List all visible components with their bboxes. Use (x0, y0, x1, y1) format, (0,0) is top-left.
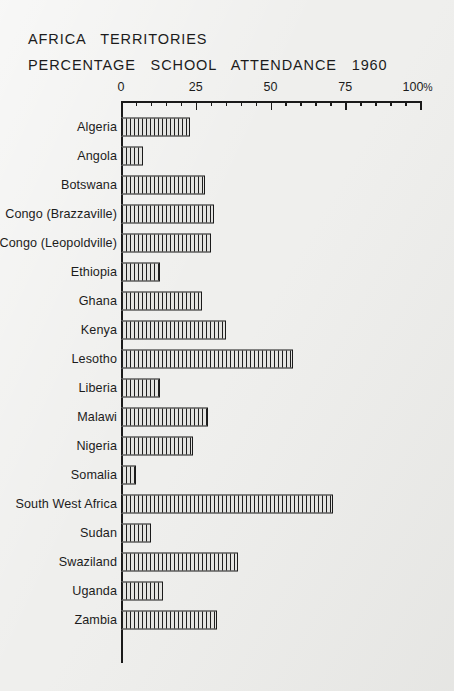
bar-row: Uganda (0, 576, 454, 605)
bar-track (121, 233, 211, 252)
bar-row: Nigeria (0, 431, 454, 460)
bar (121, 320, 226, 339)
bar-track (121, 320, 226, 339)
bar-rows: AlgeriaAngolaBotswanaCongo (Brazzaville)… (0, 112, 454, 634)
x-axis-minor-tick (315, 101, 317, 106)
x-axis-minor-tick (390, 101, 392, 106)
bar-track (121, 204, 214, 223)
x-axis-minor-tick (360, 101, 362, 106)
bar (121, 465, 136, 484)
bar-track (121, 610, 217, 629)
bar-category-label: Liberia (78, 381, 117, 395)
bar (121, 610, 217, 629)
x-axis-major-tick (420, 101, 422, 110)
bar-track (121, 291, 202, 310)
bar-track (121, 523, 151, 542)
x-axis-minor-tick (300, 101, 302, 106)
bar (121, 552, 238, 571)
bar (121, 349, 293, 368)
x-axis-minor-tick (181, 101, 183, 106)
bar-category-label: Ghana (79, 294, 117, 308)
bar (121, 378, 160, 397)
x-axis-major-tick (271, 101, 273, 110)
bar-track (121, 581, 163, 600)
bar (121, 291, 202, 310)
bar-row: Swaziland (0, 547, 454, 576)
bar (121, 581, 163, 600)
bar-category-label: Lesotho (71, 352, 117, 366)
bar (121, 262, 160, 281)
bar-track (121, 407, 208, 426)
bar-row: Somalia (0, 460, 454, 489)
bar (121, 233, 211, 252)
bar (121, 407, 208, 426)
x-axis-minor-tick (375, 101, 377, 106)
x-axis-tick-label: 25 (189, 80, 203, 94)
x-axis-minor-tick (256, 101, 258, 106)
bar-track (121, 465, 136, 484)
bar (121, 523, 151, 542)
x-axis-minor-tick (211, 101, 213, 106)
bar-category-label: Congo (Leopoldville) (0, 236, 117, 250)
bar-row: Zambia (0, 605, 454, 634)
bar-track (121, 146, 143, 165)
bar-track (121, 436, 193, 455)
bar (121, 175, 205, 194)
x-axis-tick-label: 0 (118, 80, 125, 94)
bar-category-label: Algeria (77, 120, 117, 134)
bar-category-label: Uganda (72, 584, 117, 598)
bar-row: Angola (0, 141, 454, 170)
bar-row: Malawi (0, 402, 454, 431)
bar-row: Liberia (0, 373, 454, 402)
bar-row: Sudan (0, 518, 454, 547)
bar-row: Lesotho (0, 344, 454, 373)
x-axis-minor-tick (151, 101, 153, 106)
bar-category-label: South West Africa (15, 497, 117, 511)
bar-row: Algeria (0, 112, 454, 141)
bar-row: Congo (Leopoldville) (0, 228, 454, 257)
bar (121, 436, 193, 455)
x-axis-minor-tick (285, 101, 287, 106)
x-axis: 0255075100% (121, 101, 420, 102)
bar-category-label: Botswana (61, 178, 117, 192)
x-axis-minor-tick (241, 101, 243, 106)
percent-symbol: % (423, 81, 432, 93)
x-axis-tick-label: 100% (402, 80, 432, 94)
bar-row: Ethiopia (0, 257, 454, 286)
bar-category-label: Malawi (77, 410, 117, 424)
bar (121, 117, 190, 136)
bar-category-label: Sudan (80, 526, 117, 540)
bar-row: Botswana (0, 170, 454, 199)
x-axis-tick-label: 50 (264, 80, 278, 94)
x-axis-minor-tick (166, 101, 168, 106)
chart-title-line-1: AFRICA TERRITORIES (28, 32, 388, 47)
x-axis-minor-tick (226, 101, 228, 106)
bar-row: South West Africa (0, 489, 454, 518)
chart-title-line-2: PERCENTAGE SCHOOL ATTENDANCE 1960 (28, 58, 388, 73)
bar-category-label: Nigeria (76, 439, 117, 453)
x-axis-major-tick (345, 101, 347, 110)
bar-track (121, 349, 293, 368)
bar (121, 204, 214, 223)
bar-row: Kenya (0, 315, 454, 344)
x-axis-tick-label: 75 (338, 80, 352, 94)
bar-category-label: Swaziland (59, 555, 117, 569)
x-axis-minor-tick (136, 101, 138, 106)
bar-category-label: Angola (77, 149, 117, 163)
bar-track (121, 175, 205, 194)
bar-category-label: Kenya (81, 323, 117, 337)
bar-category-label: Somalia (71, 468, 117, 482)
bar-row: Ghana (0, 286, 454, 315)
bar-track (121, 494, 333, 513)
chart-title-block: AFRICA TERRITORIES PERCENTAGE SCHOOL ATT… (28, 32, 388, 83)
bar-track (121, 378, 160, 397)
bar (121, 494, 333, 513)
bar-track (121, 552, 238, 571)
bar (121, 146, 143, 165)
bar-category-label: Zambia (74, 613, 117, 627)
x-axis-major-tick (196, 101, 198, 110)
bar-category-label: Congo (Brazzaville) (5, 207, 117, 221)
bar-track (121, 117, 190, 136)
bar-row: Congo (Brazzaville) (0, 199, 454, 228)
x-axis-minor-tick (405, 101, 407, 106)
